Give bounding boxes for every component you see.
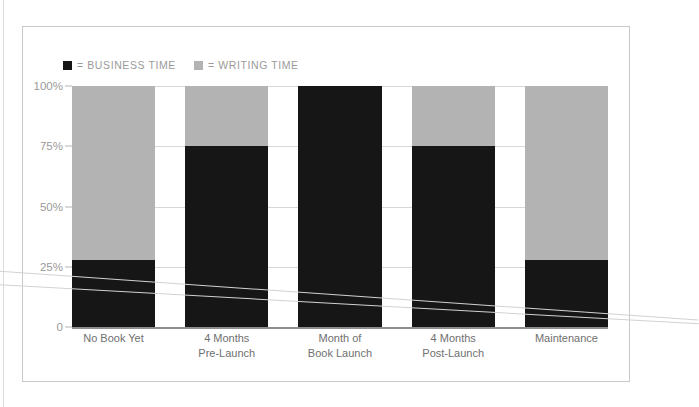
plot-area: 100% 75% 50% 25% 0 [72,86,608,327]
bar-group [72,86,608,327]
gray-square-swatch-icon [194,61,203,70]
bar-4-months-pre-launch [185,86,268,327]
ytick-dash-100 [65,86,72,87]
bar-segment-business [72,260,155,327]
ytick-label-25: 25% [40,261,63,273]
ytick-label-75: 75% [40,140,63,152]
x-axis-label-line1: 4 Months [204,332,249,344]
ytick-label-50: 50% [40,201,63,213]
ytick-dash-50 [65,206,72,207]
x-axis-label-4-months-pre-launch: 4 Months Pre-Launch [185,331,268,361]
legend-label-writing-time: = WRITING TIME [208,59,299,71]
bar-segment-writing [72,86,155,260]
bar-segment-writing [412,86,495,146]
ytick-label-100: 100% [34,80,63,92]
x-axis-label-line1: 4 Months [431,332,476,344]
x-axis-label-month-of-book-launch: Month of Book Launch [298,331,381,361]
x-axis-labels: No Book Yet 4 Months Pre-Launch Month of… [72,331,608,361]
bar-maintenance [525,86,608,327]
bar-segment-business [298,86,381,327]
x-axis-label-line2: Post-Launch [412,346,495,361]
x-axis-label-4-months-post-launch: 4 Months Post-Launch [412,331,495,361]
x-axis-label-maintenance: Maintenance [525,331,608,361]
x-axis-label-line1: No Book Yet [83,332,144,344]
ytick-dash-0 [65,327,72,328]
legend-item-business-time: = BUSINESS TIME [63,59,176,71]
bar-segment-business [525,260,608,327]
bar-segment-writing [525,86,608,260]
bar-segment-business [185,146,268,327]
x-axis-label-no-book-yet: No Book Yet [72,331,155,361]
bar-month-of-book-launch [298,86,381,327]
x-axis-label-line2: Book Launch [298,346,381,361]
bar-4-months-post-launch [412,86,495,327]
x-axis-label-line1: Maintenance [535,332,598,344]
x-axis-label-line2: Pre-Launch [185,346,268,361]
ytick-label-0: 0 [57,321,63,333]
axis-baseline-0: 0 [72,327,608,329]
legend-item-writing-time: = WRITING TIME [194,59,299,71]
chart-legend: = BUSINESS TIME = WRITING TIME [63,59,299,71]
legend-label-business-time: = BUSINESS TIME [77,59,176,71]
ytick-dash-75 [65,146,72,147]
page-edge-artifact [3,0,4,407]
bar-no-book-yet [72,86,155,327]
x-axis-label-line1: Month of [319,332,362,344]
bar-segment-business [412,146,495,327]
black-square-swatch-icon [63,61,72,70]
bar-segment-writing [185,86,268,146]
ytick-dash-25 [65,266,72,267]
